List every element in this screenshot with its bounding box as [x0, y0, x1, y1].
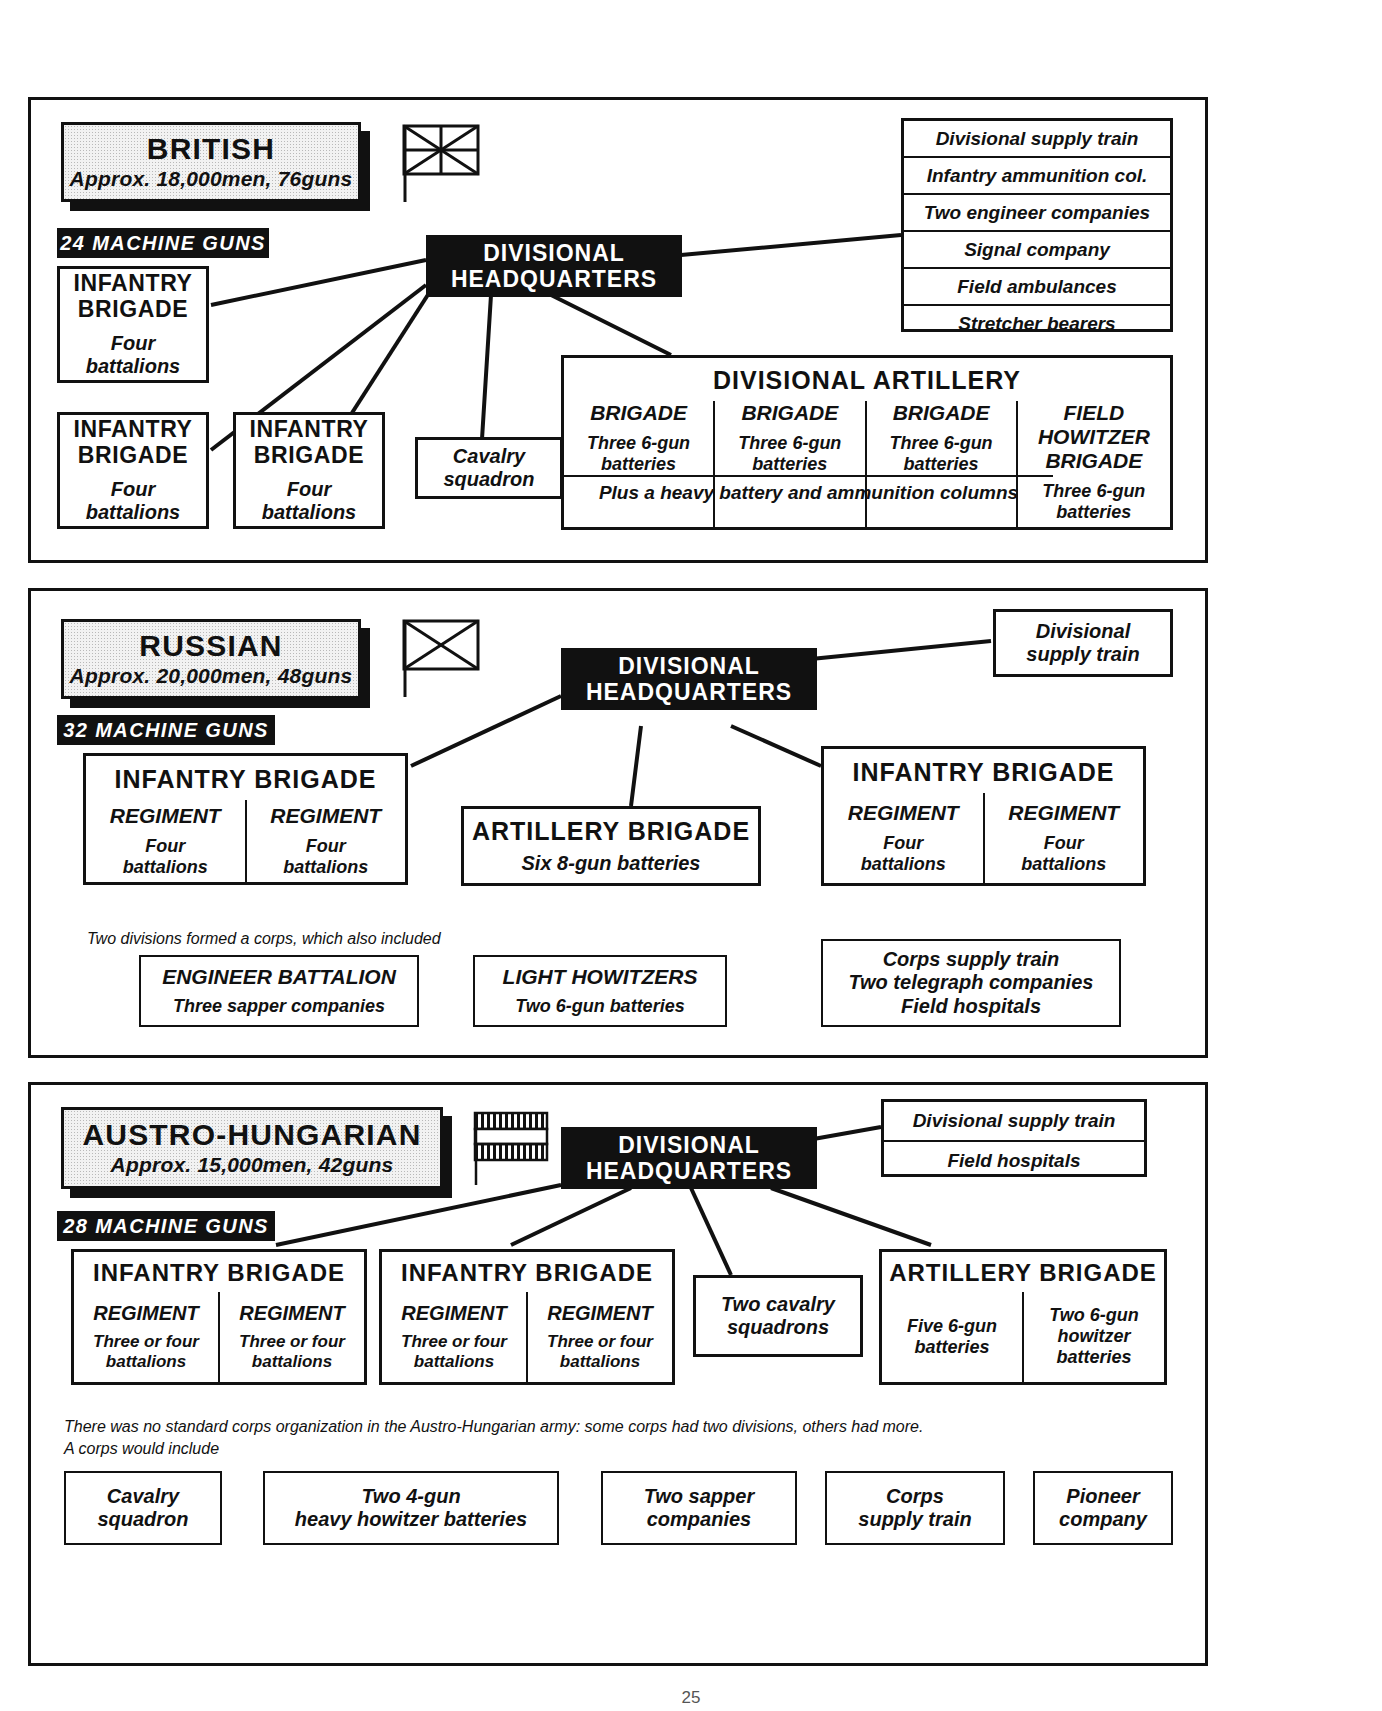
- regiment-column: REGIMENT Four battalions: [824, 793, 985, 883]
- corps-box-line1: Two 4-gun: [361, 1485, 460, 1508]
- regiment-head: REGIMENT: [848, 801, 959, 825]
- artillery-title: ARTILLERY BRIGADE: [472, 817, 750, 846]
- service-item: Divisional supply train: [884, 1102, 1144, 1142]
- artillery-body1: Two 6-gun: [1049, 1305, 1138, 1326]
- corps-box-line1: Cavalry: [107, 1485, 179, 1508]
- brigade-title-line2: BRIGADE: [78, 443, 188, 469]
- artillery-footer-note: Plus a heavy battery and ammunition colu…: [564, 482, 1053, 504]
- plaque-face: BRITISH Approx. 18,000men, 76guns: [61, 122, 361, 202]
- brigade-sub-line2: battalions: [86, 501, 180, 524]
- regiment-column: REGIMENT Four battalions: [985, 793, 1144, 883]
- artillery-col-head: BRIGADE: [893, 401, 990, 425]
- regiment-body2: battalions: [414, 1352, 494, 1372]
- corps-service-item: Corps supply train: [883, 948, 1060, 971]
- nation-title-plaque-austro: AUSTRO-HUNGARIAN Approx. 15,000men, 42gu…: [61, 1107, 443, 1189]
- machine-guns-tag-russian: 32 MACHINE GUNS: [57, 715, 275, 745]
- regiment-body1: Four: [145, 836, 185, 857]
- infantry-brigade-2-austro: INFANTRY BRIGADE REGIMENT Three or four …: [379, 1249, 675, 1385]
- panel-russian: RUSSIAN Approx. 20,000men, 48guns 32 MAC…: [28, 588, 1208, 1058]
- regiment-column: REGIMENT Four battalions: [86, 800, 247, 882]
- corps-box-sapper-companies: Two sapper companies: [601, 1471, 797, 1545]
- corps-box-line1: Corps: [886, 1485, 944, 1508]
- nation-strength: Approx. 18,000men, 76guns: [70, 167, 353, 191]
- brigade-title-line1: INFANTRY: [250, 417, 369, 443]
- service-item: Infantry ammunition col.: [904, 158, 1170, 195]
- regiment-body1: Three or four: [239, 1332, 345, 1352]
- artillery-body: Six 8-gun batteries: [522, 852, 701, 875]
- brigade-title-line1: INFANTRY: [74, 271, 193, 297]
- infantry-brigade-3: INFANTRY BRIGADE Four battalions: [233, 412, 385, 529]
- machine-guns-tag-british: 24 MACHINE GUNS: [57, 228, 269, 258]
- regiment-body1: Four: [306, 836, 346, 857]
- divisional-headquarters-british: DIVISIONAL HEADQUARTERS: [426, 235, 682, 297]
- hq-line-2: HEADQUARTERS: [586, 1158, 792, 1184]
- nation-strength: Approx. 20,000men, 48guns: [70, 664, 353, 688]
- artillery-title: ARTILLERY BRIGADE: [889, 1259, 1157, 1287]
- brigade-sub-line1: Four: [287, 478, 331, 501]
- service-item: Two engineer companies: [904, 195, 1170, 232]
- corps-box-corps-supply-train: Corps supply train: [825, 1471, 1005, 1545]
- division-services-list-austro: Divisional supply train Field hospitals: [881, 1099, 1147, 1177]
- service-item: Stretcher bearers: [904, 306, 1170, 341]
- regiment-body2: battalions: [123, 857, 208, 878]
- howitzer-body2: batteries: [1056, 502, 1131, 523]
- divisional-headquarters-russian: DIVISIONAL HEADQUARTERS: [561, 648, 817, 710]
- artillery-col-body2: batteries: [904, 454, 979, 475]
- plaque-face: AUSTRO-HUNGARIAN Approx. 15,000men, 42gu…: [61, 1107, 443, 1189]
- regiment-body2: battalions: [861, 854, 946, 875]
- howitzer-head-3: BRIGADE: [1045, 449, 1142, 473]
- light-howitzers-box: LIGHT HOWITZERS Two 6-gun batteries: [473, 955, 727, 1027]
- brigade-sub-line2: battalions: [262, 501, 356, 524]
- artillery-col-body2: batteries: [601, 454, 676, 475]
- corps-box-heavy-howitzer-batteries: Two 4-gun heavy howitzer batteries: [263, 1471, 559, 1545]
- regiment-body1: Three or four: [93, 1332, 199, 1352]
- service-item: Field hospitals: [884, 1142, 1144, 1180]
- nation-name: RUSSIAN: [139, 630, 282, 662]
- cavalry-line2: squadrons: [727, 1316, 829, 1339]
- hq-line-1: DIVISIONAL: [483, 240, 625, 266]
- infantry-brigade-left-russian: INFANTRY BRIGADE REGIMENT Four battalion…: [83, 753, 408, 885]
- diagram-page: BRITISH Approx. 18,000men, 76guns 24 MAC…: [0, 0, 1382, 1711]
- corps-box-body: Two 6-gun batteries: [515, 996, 684, 1017]
- artillery-col-head: BRIGADE: [741, 401, 838, 425]
- regiment-head: REGIMENT: [401, 1302, 507, 1325]
- regiment-column: REGIMENT Three or four battalions: [528, 1292, 672, 1382]
- artillery-col-body2: batteries: [752, 454, 827, 475]
- regiment-body1: Four: [1044, 833, 1084, 854]
- artillery-body3: batteries: [1056, 1347, 1131, 1368]
- brigade-title-line2: BRIGADE: [78, 297, 188, 323]
- artillery-column: Five 6-gun batteries: [882, 1292, 1024, 1382]
- artillery-footer-divider: [564, 475, 1053, 477]
- hq-line-2: HEADQUARTERS: [586, 679, 792, 705]
- artillery-col-body1: Three 6-gun: [890, 433, 993, 454]
- corps-note-line1-austro: There was no standard corps organization…: [64, 1415, 1164, 1438]
- service-item: Field ambulances: [904, 269, 1170, 306]
- corps-box-pioneer-company: Pioneer company: [1033, 1471, 1173, 1545]
- corps-service-item: Field hospitals: [901, 995, 1041, 1018]
- corps-box-line1: Pioneer: [1066, 1485, 1139, 1508]
- corps-box-line1: Two sapper: [644, 1485, 754, 1508]
- regiment-column: REGIMENT Three or four battalions: [220, 1292, 364, 1382]
- regiment-body2: battalions: [283, 857, 368, 878]
- regiment-body2: battalions: [1021, 854, 1106, 875]
- panel-british: BRITISH Approx. 18,000men, 76guns 24 MAC…: [28, 97, 1208, 563]
- infantry-brigade-2: INFANTRY BRIGADE Four battalions: [57, 412, 209, 529]
- divisional-supply-train-russian: Divisional supply train: [993, 609, 1173, 677]
- regiment-body2: battalions: [252, 1352, 332, 1372]
- saltire-cross-flag-icon: [399, 617, 489, 699]
- corps-box-body: Three sapper companies: [173, 996, 385, 1017]
- service-item: Signal company: [904, 232, 1170, 269]
- corps-box-cavalry-squadron: Cavalry squadron: [64, 1471, 222, 1545]
- brigade-title-line2: BRIGADE: [254, 443, 364, 469]
- howitzer-head-2: HOWITZER: [1038, 425, 1150, 449]
- corps-note-line2-austro: A corps would include: [64, 1437, 219, 1460]
- regiment-body2: battalions: [560, 1352, 640, 1372]
- machine-guns-tag-austro: 28 MACHINE GUNS: [57, 1211, 275, 1241]
- divisional-headquarters-austro: DIVISIONAL HEADQUARTERS: [561, 1127, 817, 1189]
- corps-box-line2: heavy howitzer batteries: [295, 1508, 527, 1531]
- hq-line-1: DIVISIONAL: [618, 653, 760, 679]
- cavalry-squadrons-austro: Two cavalry squadrons: [693, 1275, 863, 1357]
- regiment-column: REGIMENT Four battalions: [247, 800, 406, 882]
- regiment-head: REGIMENT: [1008, 801, 1119, 825]
- regiment-body1: Three or four: [547, 1332, 653, 1352]
